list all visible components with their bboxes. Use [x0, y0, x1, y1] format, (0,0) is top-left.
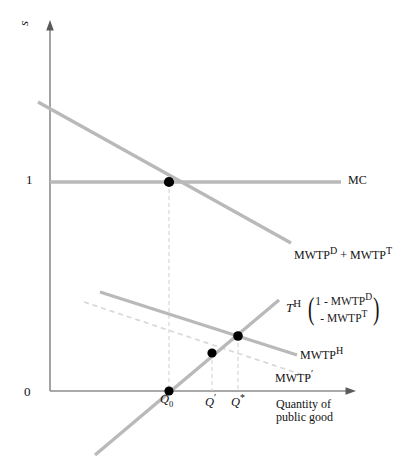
- mwtp-h-label-sup: H: [336, 345, 343, 356]
- x-tick-label-qstar: Q*: [231, 392, 245, 409]
- mwtp-prime-curve-label: MWTP′: [275, 368, 313, 385]
- y-axis-arrowhead: [46, 20, 54, 31]
- aggregate-demand-curve-label: MWTPD + MWTPT: [294, 245, 392, 262]
- mwtp-prime-label-base: MWTP: [275, 371, 311, 385]
- x-tick-label-q0: Q0: [160, 392, 173, 409]
- point-mc-demand-intersection: [164, 177, 174, 187]
- bracket-row-2-text: - MWTP: [320, 312, 361, 324]
- x-axis-title-line1: Quantity of: [276, 398, 333, 411]
- th-bracket-expression: ( 1 - MWTPD - MWTPT ): [306, 291, 381, 326]
- demand-label-part2: MWTP: [350, 248, 386, 262]
- demand-label-plus: +: [337, 248, 350, 262]
- mwtp-h-curve-label: MWTPH: [300, 345, 343, 362]
- bracket-row-2: - MWTPT: [315, 308, 367, 325]
- x-tick-label-qprime: Q′: [205, 392, 216, 409]
- mwtp-h-curve: [100, 292, 297, 355]
- bracket-right-paren: ): [373, 293, 379, 324]
- th-label-sup: H: [293, 297, 301, 309]
- qstar-base: Q: [231, 395, 240, 409]
- aggregate-demand-curve: [38, 102, 291, 243]
- demand-label-sup2: T: [386, 245, 392, 256]
- point-qprime-intersection: [207, 348, 216, 357]
- mwtp-h-label-base: MWTP: [300, 348, 336, 362]
- bracket-rows: 1 - MWTPD - MWTPT: [315, 291, 372, 326]
- axis-group: [46, 20, 356, 395]
- mwtp-prime-label-sup: ′: [311, 368, 313, 379]
- th-curve: [95, 300, 279, 455]
- qprime-base: Q: [205, 395, 214, 409]
- th-curve-label: TH: [286, 297, 301, 316]
- y-tick-label-0: 0: [24, 385, 31, 400]
- bracket-left-paren: (: [308, 293, 314, 324]
- q0-base: Q: [160, 392, 169, 406]
- x-axis-title-line2: public good: [276, 411, 333, 424]
- guide-lines-group: [169, 182, 238, 391]
- qstar-sup: *: [240, 392, 245, 403]
- bracket-row-2-sup: T: [362, 308, 368, 319]
- x-axis-title: Quantity of public good: [276, 398, 333, 425]
- bracket-row-1-text: 1 - MWTP: [315, 295, 365, 307]
- bracket-row-1-sup: D: [365, 291, 372, 302]
- y-axis-label: s: [17, 21, 32, 26]
- point-qstar-intersection: [233, 331, 243, 341]
- diagram-canvas: [0, 0, 404, 458]
- economics-diagram-figure: s 1 0 MC MWTPD + MWTPT TH ( 1 - MWTPD - …: [0, 0, 404, 458]
- q0-sub: 0: [169, 399, 173, 409]
- bracket-row-1: 1 - MWTPD: [315, 291, 372, 308]
- x-axis-arrowhead: [346, 387, 357, 395]
- mc-curve-label: MC: [348, 174, 367, 187]
- demand-label-part1: MWTP: [294, 248, 330, 262]
- qprime-sup: ′: [214, 392, 216, 403]
- y-tick-label-1: 1: [26, 173, 33, 188]
